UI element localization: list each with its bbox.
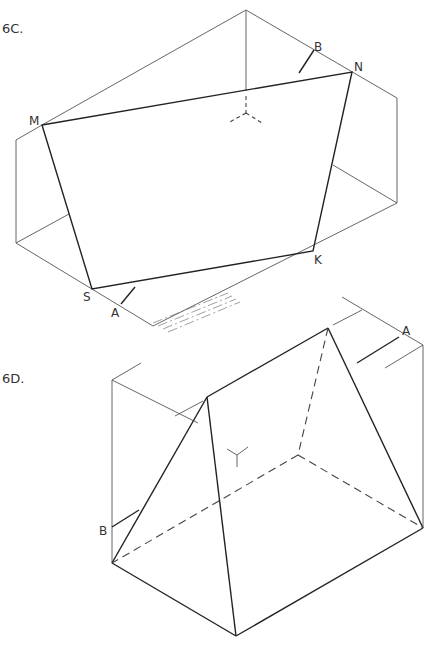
box-top-right-edge xyxy=(342,297,423,345)
box-right-stub xyxy=(385,345,423,368)
marker-label-a: A xyxy=(111,306,120,320)
marker-label-b: B xyxy=(314,40,322,54)
marker-a-tick xyxy=(357,337,399,363)
edge-right-slant xyxy=(328,328,423,528)
axis-symbol-right xyxy=(237,447,248,455)
drawing-canvas: 6C. M N K S A B 6D. xyxy=(0,0,426,649)
hidden-edge-left xyxy=(112,455,298,563)
hatch-line xyxy=(168,302,240,332)
figure-6c: 6C. M N K S A B xyxy=(2,10,397,332)
box-bottom-left-edge xyxy=(16,243,153,326)
hatch-line xyxy=(158,296,232,326)
box-inner-left-edge xyxy=(16,214,69,243)
marker-b-tick xyxy=(299,50,314,73)
box-top-left-stub xyxy=(112,363,141,380)
marker-b-tick xyxy=(112,510,139,527)
hidden-edge-vertical xyxy=(298,328,328,455)
edge-top-ridge xyxy=(207,328,328,397)
figure-6c-title: 6C. xyxy=(2,21,23,36)
hidden-edge-right xyxy=(298,455,423,528)
edge-bottom-left xyxy=(112,563,236,636)
hatch-line xyxy=(153,293,228,323)
vertex-label-n: N xyxy=(354,60,363,74)
vertex-label-k: K xyxy=(314,253,323,267)
marker-a-tick xyxy=(121,287,135,304)
edge-bottom-right xyxy=(236,528,423,636)
edge-front-slant xyxy=(207,397,236,636)
box-inner-right-edge xyxy=(333,165,397,203)
axis-symbol-left xyxy=(227,449,237,455)
marker-label-b: B xyxy=(99,524,107,538)
vertex-label-s: S xyxy=(83,290,91,304)
marker-label-a: A xyxy=(402,324,411,338)
box-top-stub xyxy=(333,310,362,325)
hidden-axis-right xyxy=(246,113,262,123)
figure-6d: 6D. A B xyxy=(2,297,423,636)
vertex-label-m: M xyxy=(29,114,39,128)
box-stub xyxy=(175,401,203,416)
hatch-line xyxy=(163,299,236,329)
figure-6d-title: 6D. xyxy=(2,371,24,386)
box-top-left-edge xyxy=(112,380,198,423)
edge-left-slant xyxy=(112,397,207,563)
section-plane-mnks xyxy=(42,72,352,289)
hidden-axis-left xyxy=(228,113,246,123)
